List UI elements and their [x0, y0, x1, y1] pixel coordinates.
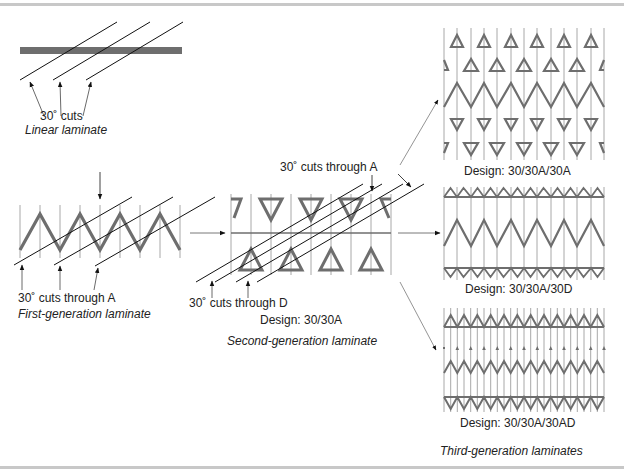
second-gen-grid [231, 194, 391, 275]
linear-laminate-title: Linear laminate [25, 123, 107, 137]
cut-a-arrow-diag [398, 174, 411, 187]
panel-3-design-label: Design: 30/30A/30AD [460, 416, 575, 430]
third-gen-title: Third-generation laminates [440, 444, 583, 458]
arrow-to-panel-1 [400, 100, 438, 165]
panel-30-30a-30a [444, 28, 604, 160]
second-gen-cut-a-label: 30˚ cuts through A [280, 160, 377, 174]
first-gen-cut-label: 30˚ cuts through A [18, 291, 115, 305]
first-gen-cut-arrows [22, 265, 98, 290]
second-gen-design-label: Design: 30/30A [260, 313, 342, 327]
panel-30-30a-30d [444, 187, 604, 280]
arrow-to-panel-3 [400, 282, 436, 350]
second-gen-title: Second-generation laminate [227, 334, 377, 348]
laminate-diagram [0, 0, 624, 472]
panel-1-design-label: Design: 30/30A/30A [464, 164, 571, 178]
panel-30-30a-30ad [443, 308, 606, 412]
second-gen-cut-d-label: 30˚ cuts through D [189, 296, 288, 310]
first-gen-title: First-generation laminate [18, 307, 151, 321]
linear-laminate [20, 22, 183, 116]
linear-cut-label: 30˚ cuts [40, 109, 83, 123]
first-generation-laminate [14, 172, 225, 290]
linear-laminate-bar [20, 47, 182, 54]
panel-2-design-label: Design: 30/30A/30D [465, 282, 572, 296]
first-gen-cut-lines [14, 197, 215, 266]
